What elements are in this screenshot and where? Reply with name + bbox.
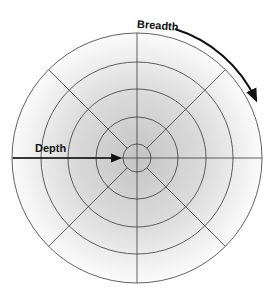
breadth-label: Breadth — [137, 18, 180, 33]
depth-label: Depth — [35, 142, 66, 154]
polar-grid-diagram: Depth Breadth — [0, 0, 275, 299]
